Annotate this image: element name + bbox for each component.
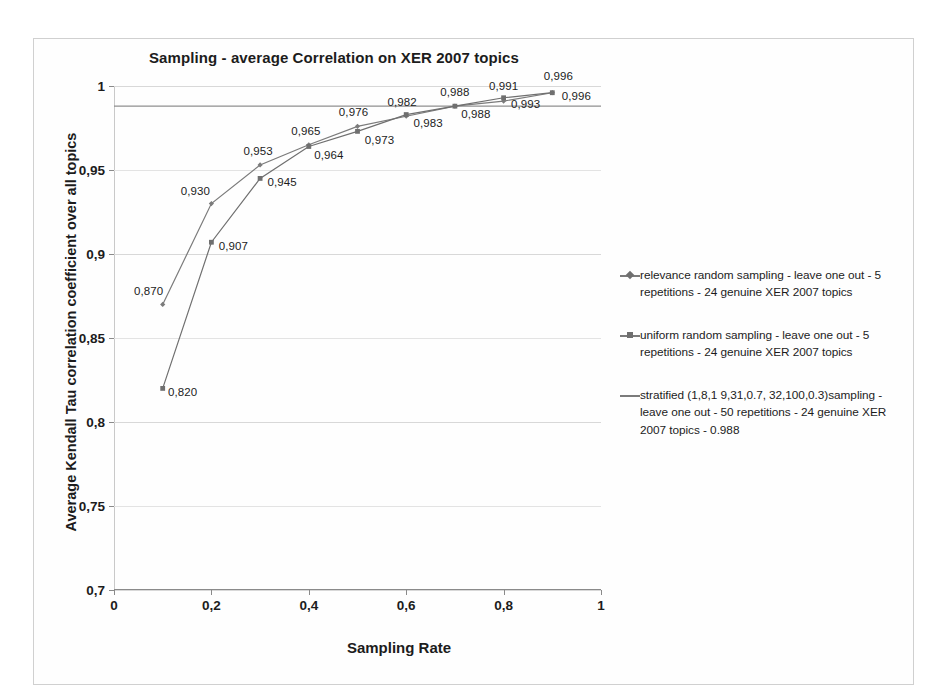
x-tick-label: 0,8 xyxy=(494,598,513,613)
data-point-label: 0,991 xyxy=(489,80,518,92)
y-tick-label: 0,85 xyxy=(79,331,105,346)
legend-marker-line-icon xyxy=(620,389,640,403)
data-point-label: 0,993 xyxy=(511,98,540,110)
y-tick-label: 0,7 xyxy=(86,583,105,598)
chart-title: Sampling - average Correlation on XER 20… xyxy=(34,49,634,66)
data-point-label: 0,982 xyxy=(388,96,417,108)
data-point-label: 0,976 xyxy=(339,106,368,118)
data-point-label: 0,930 xyxy=(181,185,210,197)
data-point-label: 0,945 xyxy=(267,176,296,188)
y-tick-label: 0,95 xyxy=(79,163,105,178)
x-tick-mark xyxy=(406,590,407,595)
data-point-marker xyxy=(501,95,506,100)
data-point-marker xyxy=(355,124,360,129)
x-tick-mark xyxy=(504,590,505,595)
y-axis-title: Average Kendall Tau correlation coeffici… xyxy=(63,82,79,582)
data-point-label: 0,870 xyxy=(134,285,163,297)
legend-entry-relevance[interactable]: relevance random sampling - leave one ou… xyxy=(620,267,910,301)
data-point-label: 0,820 xyxy=(168,386,197,398)
y-tick-label: 0,75 xyxy=(79,499,105,514)
legend-marker-square-icon xyxy=(620,329,640,343)
data-point-marker xyxy=(258,176,263,181)
legend-label-relevance: relevance random sampling - leave one ou… xyxy=(640,267,910,301)
y-tick-label: 0,8 xyxy=(86,415,105,430)
y-tick-label: 0,9 xyxy=(86,247,105,262)
data-point-label: 0,996 xyxy=(544,70,573,82)
x-tick-label: 0,2 xyxy=(202,598,221,613)
x-tick-mark xyxy=(601,590,602,595)
x-axis-title: Sampling Rate xyxy=(114,639,684,656)
data-point-marker xyxy=(160,302,165,307)
data-point-marker xyxy=(209,240,214,245)
data-point-label: 0,996 xyxy=(562,90,591,102)
x-tick-mark xyxy=(211,590,212,595)
data-point-label: 0,964 xyxy=(314,149,343,161)
x-tick-label: 0 xyxy=(110,598,118,613)
x-tick-mark xyxy=(309,590,310,595)
x-tick-label: 0,6 xyxy=(397,598,416,613)
data-point-marker xyxy=(404,112,409,117)
data-point-marker xyxy=(355,129,360,134)
gridline-y xyxy=(114,590,601,591)
legend-label-uniform: uniform random sampling - leave one out … xyxy=(640,327,910,361)
x-tick-mark xyxy=(114,590,115,595)
chart-legend: relevance random sampling - leave one ou… xyxy=(620,267,910,465)
data-point-label: 0,983 xyxy=(414,117,443,129)
y-tick-label: 1 xyxy=(97,79,105,94)
data-point-marker xyxy=(160,386,165,391)
series-lines xyxy=(114,86,601,590)
legend-label-stratified: stratified (1,8,1 9,31,0.7, 32,100,0.3)s… xyxy=(640,387,910,438)
data-point-marker xyxy=(453,104,458,109)
data-point-label: 0,988 xyxy=(461,108,490,120)
x-tick-label: 1 xyxy=(597,598,605,613)
x-tick-label: 0,4 xyxy=(299,598,318,613)
legend-marker-diamond-icon xyxy=(620,269,640,283)
plot-area: 0,70,750,80,850,90,951 00,20,40,60,81 0,… xyxy=(114,86,601,590)
data-point-marker xyxy=(550,90,555,95)
data-point-label: 0,953 xyxy=(243,145,272,157)
data-point-marker xyxy=(306,144,311,149)
legend-entry-uniform[interactable]: uniform random sampling - leave one out … xyxy=(620,327,910,361)
data-point-label: 0,973 xyxy=(365,134,394,146)
data-point-label: 0,988 xyxy=(440,86,469,98)
data-point-label: 0,965 xyxy=(291,125,320,137)
chart-container: Sampling - average Correlation on XER 20… xyxy=(33,38,914,685)
data-point-label: 0,907 xyxy=(219,240,248,252)
legend-entry-stratified[interactable]: stratified (1,8,1 9,31,0.7, 32,100,0.3)s… xyxy=(620,387,910,438)
